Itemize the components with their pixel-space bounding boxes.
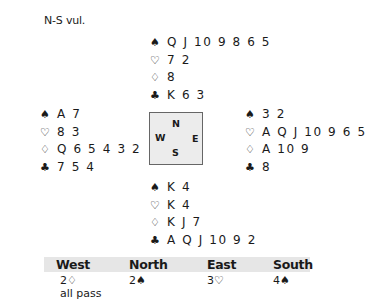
heart-icon: ♡ <box>245 125 262 142</box>
west-diamonds: ♢Q 6 5 4 3 2 <box>40 141 141 159</box>
north-clubs: ♣K 6 3 <box>150 87 271 105</box>
west-hand: ♠A 7 ♡8 3 ♢Q 6 5 4 3 2 ♣7 5 4 <box>40 106 141 176</box>
heart-icon: ♡ <box>150 198 167 215</box>
diamond-icon: ♢ <box>40 142 57 159</box>
south-spades: ♠K 4 <box>150 179 257 197</box>
spade-icon: ♠ <box>150 35 167 52</box>
west-spades: ♠A 7 <box>40 106 141 124</box>
compass-north: N <box>172 118 180 129</box>
auction-header-south: South <box>273 257 313 272</box>
west-clubs: ♣7 5 4 <box>40 159 141 177</box>
east-clubs: ♣8 <box>245 159 367 177</box>
auction-header: West North East South <box>44 257 310 272</box>
bid-north: 2♠ <box>129 274 146 287</box>
bid-west: 2♢ <box>60 274 77 287</box>
compass-box: N W E S <box>149 112 203 165</box>
club-icon: ♣ <box>150 233 167 250</box>
auction-header-west: West <box>56 257 90 272</box>
club-icon: ♣ <box>150 88 167 105</box>
diamond-icon: ♢ <box>150 215 167 232</box>
east-hand: ♠3 2 ♡A Q J 10 9 6 5 ♢A 10 9 ♣8 <box>245 106 367 176</box>
heart-icon: ♡ <box>150 53 167 70</box>
spade-icon: ♠ <box>150 180 167 197</box>
east-diamonds: ♢A 10 9 <box>245 141 367 159</box>
diamond-icon: ♢ <box>245 142 262 159</box>
heart-icon: ♡ <box>40 125 57 142</box>
diamond-icon: ♢ <box>150 70 167 87</box>
east-hearts: ♡A Q J 10 9 6 5 <box>245 124 367 142</box>
north-spades: ♠Q J 10 9 8 6 5 <box>150 34 271 52</box>
east-spades: ♠3 2 <box>245 106 367 124</box>
bid-south: 4♠ <box>273 274 290 287</box>
auction-header-north: North <box>129 257 168 272</box>
bid-east: 3♡ <box>207 274 224 287</box>
south-hearts: ♡K 4 <box>150 197 257 215</box>
south-hand: ♠K 4 ♡K 4 ♢K J 7 ♣A Q J 10 9 2 <box>150 179 257 249</box>
north-hand: ♠Q J 10 9 8 6 5 ♡7 2 ♢8 ♣K 6 3 <box>150 34 271 104</box>
south-diamonds: ♢K J 7 <box>150 214 257 232</box>
vulnerability-label: N-S vul. <box>44 14 85 27</box>
south-clubs: ♣A Q J 10 9 2 <box>150 232 257 250</box>
club-icon: ♣ <box>245 160 262 177</box>
compass-south: S <box>172 147 179 158</box>
spade-icon: ♠ <box>245 107 262 124</box>
compass-west: W <box>155 132 165 143</box>
north-hearts: ♡7 2 <box>150 52 271 70</box>
auction-final: all pass <box>60 287 102 300</box>
compass-east: E <box>192 133 199 144</box>
spade-icon: ♠ <box>40 107 57 124</box>
west-hearts: ♡8 3 <box>40 124 141 142</box>
north-diamonds: ♢8 <box>150 69 271 87</box>
club-icon: ♣ <box>40 160 57 177</box>
auction-header-east: East <box>207 257 236 272</box>
